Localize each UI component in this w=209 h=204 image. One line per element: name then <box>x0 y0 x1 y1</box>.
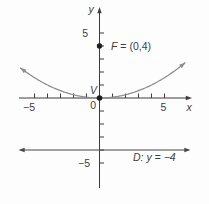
x-tick-label-5: 5 <box>161 101 167 113</box>
x-axis-arrowhead <box>186 96 192 100</box>
x-tick-label-neg5: −5 <box>23 101 35 113</box>
x-axis-label: x <box>185 101 192 113</box>
parabola-curve <box>20 63 185 98</box>
directrix-right-arrowhead <box>184 148 190 152</box>
y-axis-arrowhead <box>97 7 101 13</box>
directrix-left-arrowhead <box>19 148 25 152</box>
directrix-label: D: y = −4 <box>133 151 176 163</box>
y-axis-label: y <box>87 3 94 15</box>
y-tick-label-neg5: −5 <box>78 157 90 169</box>
focus-label-value: = (0,4) <box>117 40 151 52</box>
vertex-label: V <box>90 84 98 96</box>
directrix-label-equation: : y = −4 <box>141 151 176 163</box>
origin-label: 0 <box>90 99 96 111</box>
focus-point <box>97 43 102 48</box>
y-tick-label-5: 5 <box>82 27 88 39</box>
parabola-focus-directrix-figure: y 5 F = (0,4) V 0 −5 5 x D: y = −4 −5 <box>0 0 209 204</box>
parabola-graph: y 5 F = (0,4) V 0 −5 5 x D: y = −4 −5 <box>0 0 209 204</box>
vertex-point <box>97 95 103 101</box>
focus-label: F = (0,4) <box>111 40 151 52</box>
